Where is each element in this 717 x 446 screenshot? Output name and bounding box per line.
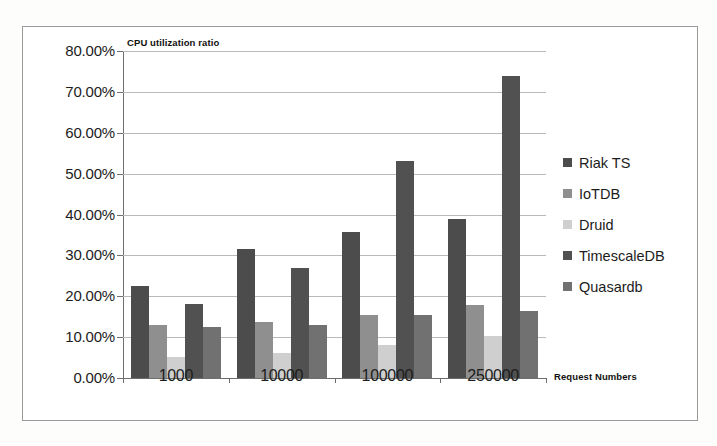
legend-label: Riak TS (579, 155, 630, 171)
y-axis-tick (117, 133, 123, 134)
legend-swatch-icon (563, 158, 572, 167)
y-axis-labels: 80.00%70.00%60.00%50.00%40.00%30.00%20.0… (23, 51, 115, 379)
bar[interactable] (131, 286, 149, 378)
bar-group-bars (448, 51, 538, 378)
bar[interactable] (342, 232, 360, 378)
plot-area (123, 51, 546, 378)
legend-item[interactable]: IoTDB (563, 178, 713, 209)
y-axis-tick-label: 40.00% (29, 206, 115, 223)
x-axis-tick-label: 100000 (335, 367, 441, 385)
bar-group (335, 51, 441, 378)
legend-swatch-icon (563, 189, 572, 198)
bar-group-bars (237, 51, 327, 378)
y-axis-tick-label: 70.00% (29, 83, 115, 100)
page-background: CPU utilization ratio Request Numbers 80… (0, 0, 717, 446)
y-axis-tick (117, 337, 123, 338)
y-axis-tick-label: 60.00% (29, 124, 115, 141)
bar-group-bars (131, 51, 221, 378)
legend-label: IoTDB (579, 186, 620, 202)
bar[interactable] (237, 249, 255, 378)
legend-label: TimescaleDB (579, 248, 665, 264)
bar[interactable] (502, 76, 520, 378)
x-axis-tick-label: 10000 (229, 367, 335, 385)
bar-group-bars (342, 51, 432, 378)
bar-group (229, 51, 335, 378)
legend-item[interactable]: TimescaleDB (563, 240, 713, 271)
y-axis-tick-label: 0.00% (29, 369, 115, 386)
y-axis-tick (117, 215, 123, 216)
chart-title: CPU utilization ratio (127, 37, 219, 48)
legend-item[interactable]: Quasardb (563, 271, 713, 302)
y-axis-tick (117, 296, 123, 297)
legend-label: Druid (579, 217, 614, 233)
legend-item[interactable]: Druid (563, 209, 713, 240)
y-axis-tick-label: 30.00% (29, 246, 115, 263)
x-axis-title: Request Numbers (554, 371, 637, 382)
y-axis-tick (117, 92, 123, 93)
legend-swatch-icon (563, 220, 572, 229)
y-axis-tick (117, 51, 123, 52)
y-axis-tick (117, 174, 123, 175)
bar-group (123, 51, 229, 378)
legend-swatch-icon (563, 251, 572, 260)
x-axis-end-tick (546, 378, 547, 383)
y-axis-tick-label: 50.00% (29, 165, 115, 182)
bar[interactable] (291, 268, 309, 378)
bar-group (440, 51, 546, 378)
y-axis-tick-label: 20.00% (29, 287, 115, 304)
y-axis-tick-label: 10.00% (29, 328, 115, 345)
chart-legend: Riak TSIoTDBDruidTimescaleDBQuasardb (563, 147, 713, 302)
legend-swatch-icon (563, 282, 572, 291)
x-axis-tick-label: 1000 (123, 367, 229, 385)
x-axis-tick-label: 250000 (440, 367, 546, 385)
bar[interactable] (448, 219, 466, 378)
y-axis-tick (117, 255, 123, 256)
bar[interactable] (396, 161, 414, 378)
legend-label: Quasardb (579, 279, 643, 295)
y-axis-tick-label: 80.00% (29, 42, 115, 59)
legend-item[interactable]: Riak TS (563, 147, 713, 178)
chart-frame: CPU utilization ratio Request Numbers 80… (22, 26, 698, 421)
